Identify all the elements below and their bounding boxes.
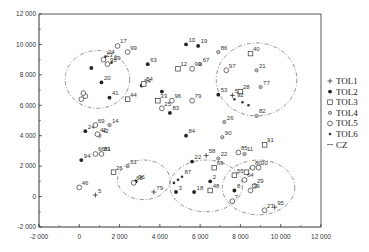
data-point: 25 <box>159 101 171 111</box>
data-point: 44 <box>125 92 137 102</box>
legend-item-tol6: TOL6 <box>329 129 359 139</box>
star-marker-icon <box>79 158 83 162</box>
data-point: 48 <box>208 183 220 193</box>
data-point: 7 <box>230 194 239 204</box>
legend-item-tol5: TOL5 <box>328 118 359 128</box>
data-point: 8 <box>232 183 240 192</box>
small-star-marker-icon <box>177 179 180 182</box>
point-label: 48 <box>213 183 220 189</box>
data-point: 55 <box>232 168 244 178</box>
data-point: 94 <box>79 153 91 162</box>
axes: -2 00002 0004 0006 0008 00010 00012 000-… <box>16 10 331 240</box>
point-label: 79 <box>195 93 202 99</box>
data-point: 86 <box>217 45 228 54</box>
point-label: 94 <box>84 153 91 159</box>
star-marker-icon <box>184 43 188 47</box>
data-point: 3 <box>174 185 182 194</box>
x-tick-label: 0 <box>77 233 81 240</box>
point-label: 20 <box>104 75 111 81</box>
data-point: 41 <box>108 90 120 99</box>
data-point: 79 <box>190 93 202 103</box>
point-label: 21 <box>259 63 266 69</box>
data-point: 96 <box>170 93 182 103</box>
point-label: 33 <box>160 93 167 99</box>
point-label: 59 <box>114 55 121 61</box>
point-label: 19 <box>201 38 208 44</box>
y-tick-label: 4 000 <box>20 132 37 139</box>
series-tol1: 595537958 <box>93 88 285 210</box>
data-point: 93 <box>190 61 202 71</box>
data-point <box>81 91 86 96</box>
diamond-marker-dot <box>218 52 219 53</box>
data-point: 2 <box>208 174 216 183</box>
point-label: 26 <box>116 165 123 171</box>
small-star-marker-icon <box>241 101 244 104</box>
point-label: 7 <box>235 194 239 200</box>
data-point: 26 <box>111 165 123 175</box>
point-label: 55 <box>237 168 244 174</box>
point-label: 17 <box>120 38 127 44</box>
diamond-marker-dot <box>222 137 223 138</box>
point-label: 28 <box>243 84 250 90</box>
point-label: 18 <box>197 185 204 191</box>
point-label: 58 <box>209 148 216 154</box>
data-point: 51 <box>126 159 137 168</box>
circle-marker-icon <box>328 121 333 126</box>
data-point <box>247 104 250 107</box>
point-label: 64 <box>247 172 254 178</box>
diamond-marker-dot <box>109 125 110 126</box>
y-tick-label: 2 000 <box>20 162 37 169</box>
point-label: 41 <box>112 90 119 96</box>
data-point: 17 <box>115 38 127 48</box>
legend-label: TOL2 <box>336 87 358 97</box>
data-point: 39 <box>248 183 260 193</box>
point-label: 90 <box>225 130 232 136</box>
point-label: 77 <box>263 80 270 86</box>
y-tick-label: 12 000 <box>16 10 36 17</box>
point-label: 39 <box>253 183 260 189</box>
point-label: 95 <box>277 200 284 206</box>
y-tick-label: 6 000 <box>20 102 37 109</box>
legend-item-cz: CZ <box>327 140 348 150</box>
data-point <box>177 179 180 182</box>
data-point: 22 <box>217 151 228 160</box>
point-label: 44 <box>130 92 137 98</box>
series-tol5: 1713956942668146999625937997856880306429… <box>77 38 275 212</box>
data-point: 58 <box>204 148 216 158</box>
circle-marker-icon <box>79 97 84 102</box>
point-label: 22 <box>195 154 202 160</box>
star-marker-icon <box>83 129 87 133</box>
point-label: 30 <box>261 160 268 166</box>
star-marker-icon <box>108 96 112 100</box>
small-star-marker-icon <box>110 61 113 64</box>
point-label: 53 <box>221 87 228 93</box>
data-point: 10 <box>184 37 196 46</box>
star-marker-icon <box>216 93 220 97</box>
x-tick-label: 4 000 <box>152 233 169 240</box>
data-point: 97 <box>224 63 236 73</box>
point-label: 8 <box>237 183 241 189</box>
point-label: 42 <box>100 127 107 133</box>
point-label: 79 <box>156 185 163 191</box>
point-label: 93 <box>195 61 202 67</box>
data-point: 46 <box>77 180 89 190</box>
data-point: 22 <box>190 154 202 163</box>
data-point: 77 <box>259 80 270 89</box>
data-point: 53 <box>216 87 228 96</box>
diamond-marker-dot <box>330 112 331 113</box>
data-point <box>173 182 176 185</box>
point-label: 25 <box>164 101 171 107</box>
point-label: 68 <box>136 175 143 181</box>
point-label: 22 <box>221 151 228 157</box>
point-label: 40 <box>253 46 260 52</box>
data-point: 12 <box>176 61 188 71</box>
x-tick-label: 8 000 <box>232 233 249 240</box>
data-point: 82 <box>255 108 266 117</box>
data-point: 85 <box>236 145 248 155</box>
legend-label: TOL4 <box>336 108 358 118</box>
data-point <box>89 66 93 70</box>
star-marker-icon <box>184 134 188 138</box>
legend-item-tol2: TOL2 <box>328 87 358 97</box>
data-point: 69 <box>212 160 224 170</box>
legend: TOL1TOL2TOL3TOL4TOL5TOL6CZ <box>327 76 358 150</box>
